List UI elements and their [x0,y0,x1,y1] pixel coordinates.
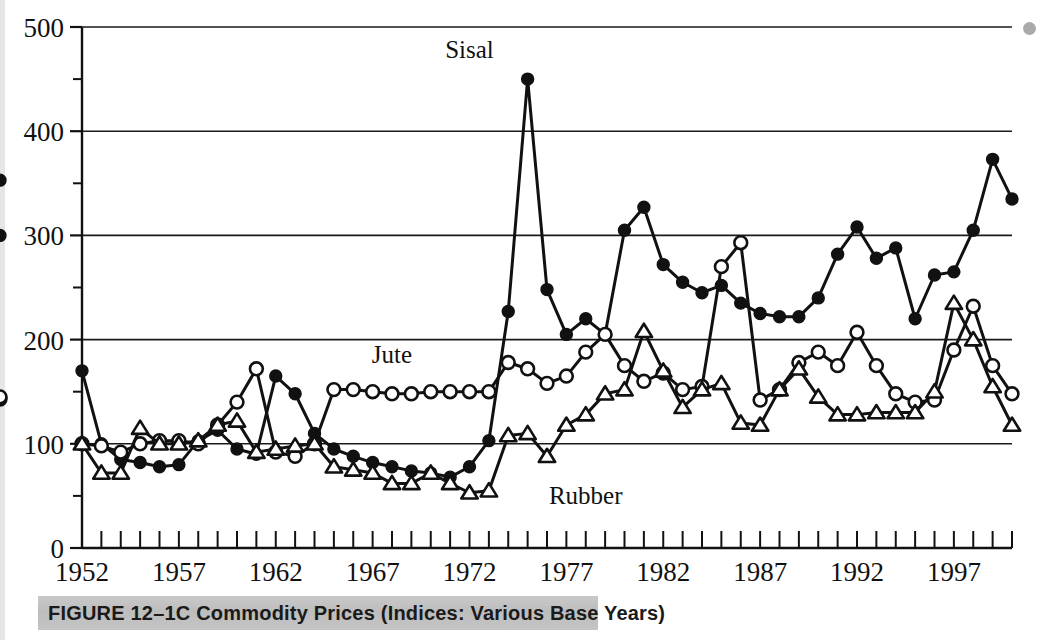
x-tick-label-1962: 1962 [249,557,303,587]
y-axis-tick-labels: 0100200300400500 [24,13,65,564]
series-line-rubber [82,303,1012,493]
marker-jute-1971 [444,385,457,398]
marker-rubber-1999 [984,379,1000,392]
marker-sisal-1988 [774,311,786,323]
marker-jute-1979 [599,328,612,341]
y-tick-label-100: 100 [24,430,65,460]
marker-sisal-1997 [948,266,960,278]
marker-jute-1997 [947,344,960,357]
marker-rubber-1998 [965,332,981,345]
x-tick-label-1957: 1957 [152,557,206,587]
marker-sisal-1955 [134,457,146,469]
series-annotations: SisalJuteRubber [372,36,623,509]
marker-sisal-1972 [464,461,476,473]
page-corner-smudge [1023,22,1036,35]
marker-rubber-1980 [616,382,632,395]
marker-jute-1980 [618,359,631,372]
marker-sisal-1980 [619,224,631,236]
commodity-prices-line-chart: 0100200300400500 19521957196219671972197… [0,0,1043,590]
annotation-rubber: Rubber [549,482,623,509]
marker-jute-1967 [366,385,379,398]
marker-rubber-1981 [636,324,652,337]
marker-jute-1965 [327,383,340,396]
marker-rubber-1997 [946,296,962,309]
marker-sisal-1990 [812,292,824,304]
marker-rubber-1985 [713,376,729,389]
y-tick-label-500: 500 [24,13,65,43]
x-tick-label-1992: 1992 [830,557,884,587]
x-tick-label-1972: 1972 [443,557,497,587]
marker-sisal-1991 [832,248,844,260]
marker-jute-1998 [967,300,980,313]
marker-sisal-1998 [967,224,979,236]
marker-sisal-1993 [870,252,882,264]
figure-caption-text: FIGURE 12–1C Commodity Prices (Indices: … [48,602,665,625]
marker-jute-1976 [541,377,554,390]
marker-sisal-1968 [386,461,398,473]
marker-rubber-1975 [519,426,535,439]
y-tick-label-400: 400 [24,117,65,147]
marker-jute-1970 [424,385,437,398]
marker-jute-1974 [502,356,515,369]
x-tick-label-1997: 1997 [927,557,981,587]
marker-jute-1954 [114,446,127,459]
marker-sisal-undefined [0,174,6,186]
marker-sisal-1978 [580,313,592,325]
marker-jute-1981 [637,375,650,388]
marker-sisal-1986 [735,297,747,309]
marker-sisal-1952 [76,365,88,377]
y-tick-label-300: 300 [24,221,65,251]
marker-rubber-1986 [733,415,749,428]
marker-jute-1993 [870,359,883,372]
marker-jute-1985 [715,260,728,273]
marker-jute-1978 [579,346,592,359]
marker-sisal-1974 [502,305,514,317]
marker-sisal-1966 [347,450,359,462]
marker-jute-1969 [405,387,418,400]
marker-jute-1994 [889,387,902,400]
marker-jute-1972 [463,385,476,398]
marker-jute-2000 [1006,387,1019,400]
marker-sisal-1992 [851,221,863,233]
marker-jute-1968 [386,387,399,400]
marker-sisal-1973 [483,435,495,447]
marker-sisal-undefined [0,229,6,241]
marker-rubber-1955 [132,421,148,434]
marker-jute-1986 [734,236,747,249]
x-tick-label-1967: 1967 [346,557,400,587]
marker-sisal-1983 [677,276,689,288]
marker-sisal-1965 [328,443,340,455]
series-rubber [74,296,1020,499]
marker-jute-1992 [851,326,864,339]
marker-sisal-1956 [154,461,166,473]
marker-jute-1975 [521,362,534,375]
marker-jute-1987 [754,394,767,407]
x-axis [82,531,1012,548]
x-tick-label-1982: 1982 [636,557,690,587]
marker-jute-undefined [0,391,6,404]
x-axis-tick-labels: 1952195719621967197219771982198719921997 [55,557,981,587]
marker-sisal-1984 [696,287,708,299]
marker-sisal-1977 [560,328,572,340]
marker-jute-1953 [95,439,108,452]
data-series-group [0,73,1020,498]
x-tick-label-1952: 1952 [55,557,109,587]
marker-jute-1990 [812,346,825,359]
marker-sisal-1963 [289,388,301,400]
figure-caption-bar: FIGURE 12–1C Commodity Prices (Indices: … [38,596,598,630]
marker-jute-1999 [986,359,999,372]
marker-rubber-1990 [810,389,826,402]
marker-sisal-1996 [929,269,941,281]
marker-jute-1973 [482,385,495,398]
marker-jute-1983 [676,383,689,396]
marker-jute-1966 [347,383,360,396]
marker-jute-1977 [560,370,573,383]
marker-sisal-1960 [231,443,243,455]
marker-sisal-1999 [987,153,999,165]
marker-sisal-1957 [173,459,185,471]
x-tick-label-1987: 1987 [733,557,787,587]
y-axis [70,27,82,548]
marker-sisal-1989 [793,311,805,323]
marker-sisal-2000 [1006,193,1018,205]
marker-rubber-1960 [229,413,245,426]
